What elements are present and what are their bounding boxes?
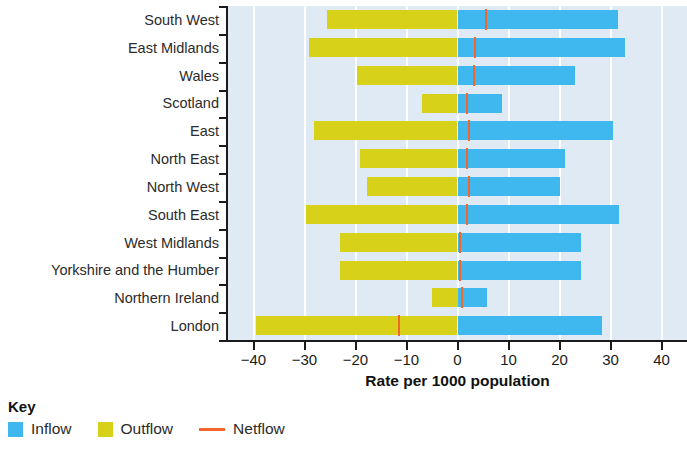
netflow-marker	[468, 120, 470, 141]
legend: Key InflowOutflowNetflow	[8, 398, 408, 438]
bar-row	[228, 173, 687, 201]
legend-title: Key	[8, 398, 408, 415]
bar-segment-inflow	[458, 66, 575, 85]
y-axis-label: Scotland	[4, 96, 219, 111]
legend-swatch-netflow	[199, 428, 225, 431]
x-axis-tick	[304, 342, 306, 350]
y-axis-label: Northern Ireland	[4, 291, 219, 306]
legend-item: Outflow	[98, 420, 174, 438]
legend-item: Inflow	[8, 420, 72, 438]
bar-series-group	[228, 6, 687, 340]
bar-segment-inflow	[458, 94, 503, 113]
bar-segment-inflow	[458, 205, 619, 224]
bar-segment-outflow	[340, 261, 457, 280]
x-axis-title: Rate per 1000 population	[228, 372, 687, 390]
x-axis-tick-label: −10	[382, 352, 432, 367]
netflow-marker	[398, 315, 400, 336]
x-axis-tick-label: −30	[280, 352, 330, 367]
x-axis-tick	[508, 342, 510, 350]
netflow-marker	[459, 260, 461, 281]
chart-figure: South WestEast MidlandsWalesScotlandEast…	[0, 0, 687, 454]
bar-row	[228, 34, 687, 62]
bar-segment-outflow	[256, 316, 458, 335]
x-axis-tick-label: −40	[229, 352, 279, 367]
bar-segment-outflow	[432, 288, 458, 307]
bar-segment-outflow	[422, 94, 458, 113]
netflow-marker	[474, 37, 476, 58]
bar-segment-outflow	[327, 10, 458, 29]
legend-item: Netflow	[199, 420, 285, 438]
x-axis-tick	[610, 342, 612, 350]
x-axis-tick	[253, 342, 255, 350]
bar-row	[228, 90, 687, 118]
x-axis-tick-label: 0	[433, 352, 483, 367]
bar-row	[228, 145, 687, 173]
x-axis-tick	[457, 342, 459, 350]
bar-segment-outflow	[314, 121, 458, 140]
x-axis-tick-label: 30	[586, 352, 636, 367]
bar-segment-outflow	[309, 38, 458, 57]
netflow-marker	[466, 148, 468, 169]
bar-segment-inflow	[458, 261, 581, 280]
bar-segment-inflow	[458, 316, 603, 335]
y-axis-label: London	[4, 319, 219, 334]
bar-segment-outflow	[360, 149, 458, 168]
netflow-marker	[461, 287, 463, 308]
bar-segment-outflow	[357, 66, 458, 85]
bar-segment-inflow	[458, 10, 618, 29]
y-axis-category-labels: South WestEast MidlandsWalesScotlandEast…	[0, 6, 219, 340]
x-axis-tick-label: 20	[535, 352, 585, 367]
bar-row	[228, 201, 687, 229]
netflow-marker	[466, 93, 468, 114]
legend-items: InflowOutflowNetflow	[8, 420, 408, 438]
netflow-marker	[466, 204, 468, 225]
bar-segment-inflow	[458, 233, 581, 252]
bar-row	[228, 284, 687, 312]
x-axis-tick	[559, 342, 561, 350]
bar-segment-inflow	[458, 121, 613, 140]
netflow-marker	[459, 232, 461, 253]
y-axis-label: Yorkshire and the Humber	[4, 263, 219, 278]
x-axis-tick-label: −20	[331, 352, 381, 367]
netflow-marker	[473, 65, 475, 86]
x-axis-tick-label: 10	[484, 352, 534, 367]
plot-area	[228, 6, 687, 340]
bar-segment-outflow	[306, 205, 458, 224]
bar-row	[228, 312, 687, 340]
y-axis-label: South West	[4, 13, 219, 28]
y-axis-label: East	[4, 124, 219, 139]
y-axis-label: North East	[4, 152, 219, 167]
x-axis-tick-label: 40	[637, 352, 687, 367]
bar-segment-outflow	[367, 177, 458, 196]
netflow-marker	[468, 176, 470, 197]
bar-row	[228, 62, 687, 90]
legend-swatch-outflow	[98, 422, 113, 437]
bar-row	[228, 6, 687, 34]
y-axis-label: West Midlands	[4, 236, 219, 251]
bar-row	[228, 229, 687, 257]
x-axis-tick	[406, 342, 408, 350]
bar-row	[228, 117, 687, 145]
netflow-marker	[485, 9, 487, 30]
bar-segment-inflow	[458, 149, 565, 168]
x-axis-tick	[661, 342, 663, 350]
x-axis-tick	[355, 342, 357, 350]
y-axis-label: Wales	[4, 69, 219, 84]
y-axis-label: South East	[4, 208, 219, 223]
y-axis-label: East Midlands	[4, 41, 219, 56]
legend-label: Inflow	[31, 420, 72, 438]
bar-row	[228, 257, 687, 285]
legend-swatch-inflow	[8, 422, 23, 437]
bar-segment-inflow	[458, 38, 625, 57]
legend-label: Outflow	[121, 420, 174, 438]
bar-segment-outflow	[340, 233, 457, 252]
bar-segment-inflow	[458, 177, 560, 196]
y-axis-label: North West	[4, 180, 219, 195]
legend-label: Netflow	[233, 420, 285, 438]
